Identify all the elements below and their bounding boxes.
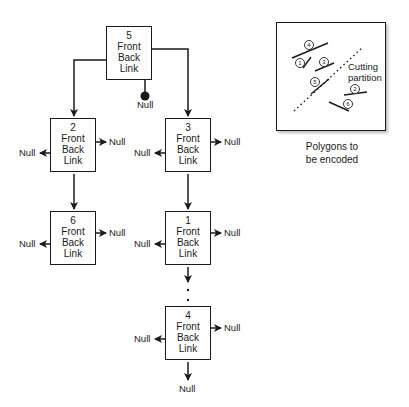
polygon-label-2: 2: [350, 84, 360, 94]
caption-line2: be encoded: [291, 153, 373, 166]
partition-label-line1: Cutting: [348, 61, 382, 72]
inset-caption: Polygons to be encoded: [291, 140, 373, 166]
caption-line1: Polygons to: [291, 140, 373, 153]
polygon-label-5: 5: [310, 77, 320, 87]
partition-label-line2: partition: [348, 72, 382, 83]
polygon-label-6: 6: [343, 99, 353, 109]
polygon-label-3: 3: [319, 57, 329, 67]
cutting-partition-label: Cutting partition: [348, 61, 382, 83]
polygon-label-1: 1: [295, 58, 305, 68]
polygon-label-4: 4: [304, 40, 314, 50]
